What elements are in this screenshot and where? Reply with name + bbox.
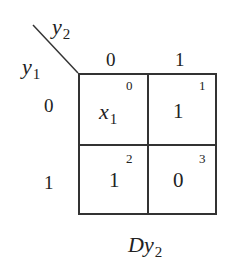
cell-3-index: 3 [199, 151, 206, 167]
cell-1-index: 1 [199, 78, 206, 94]
column-header-1: 1 [175, 49, 185, 71]
row-variable-label: y1 [22, 54, 40, 83]
column-variable-subscript: 2 [63, 26, 71, 42]
cell-0-value-subscript: 1 [110, 111, 118, 127]
row-variable-base: y [22, 54, 32, 79]
row-header-0: 0 [44, 95, 54, 117]
caption-base: Dy [128, 232, 154, 257]
row-header-1: 1 [44, 172, 54, 194]
column-header-0: 0 [106, 49, 116, 71]
cell-2-index: 2 [126, 151, 133, 167]
row-variable-subscript: 1 [33, 66, 41, 82]
grid-left-border [78, 73, 80, 214]
caption-subscript: 2 [155, 244, 163, 260]
kmap-grid [78, 73, 216, 214]
cell-0-index: 0 [126, 78, 133, 94]
cell-0-value-base: x [99, 99, 109, 124]
cell-0-value: x1 [99, 99, 117, 128]
map-caption: Dy2 [128, 232, 162, 261]
cell-2-value: 1 [109, 168, 120, 193]
column-variable-label: y2 [52, 14, 70, 43]
column-variable-base: y [52, 14, 62, 39]
cell-1-value: 1 [173, 99, 184, 124]
cell-3-value: 0 [173, 168, 184, 193]
grid-right-border [215, 73, 217, 214]
grid-middle-vertical [147, 73, 149, 214]
